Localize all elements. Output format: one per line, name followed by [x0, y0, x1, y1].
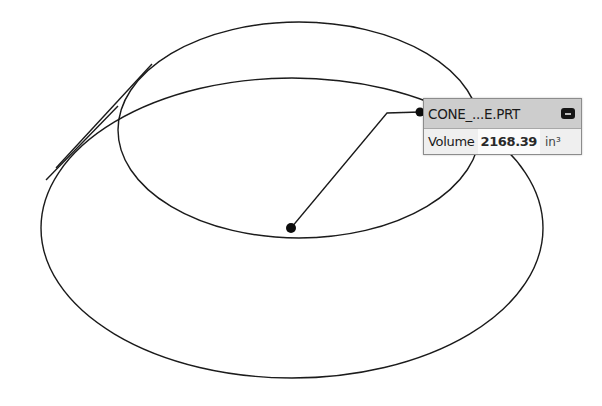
volume-label: Volume	[424, 129, 478, 154]
measurement-callout[interactable]: CONE_...E.PRT Volume 2168.39 in³	[423, 98, 582, 155]
cone-wireframe[interactable]	[0, 0, 602, 406]
volume-value: 2168.39	[478, 129, 540, 154]
measurement-leader-line	[291, 112, 420, 228]
silhouette-edge-1[interactable]	[56, 64, 152, 168]
pick-point-marker[interactable]	[286, 223, 296, 233]
minus-icon	[565, 113, 571, 115]
silhouette-edge-2[interactable]	[46, 106, 118, 180]
collapse-button[interactable]	[561, 108, 575, 119]
volume-unit: in³	[540, 129, 561, 154]
volume-row: Volume 2168.39 in³	[424, 129, 581, 154]
part-name: CONE_...E.PRT	[428, 106, 520, 122]
callout-header[interactable]: CONE_...E.PRT	[424, 99, 581, 129]
graphics-viewport[interactable]: CONE_...E.PRT Volume 2168.39 in³	[0, 0, 602, 406]
